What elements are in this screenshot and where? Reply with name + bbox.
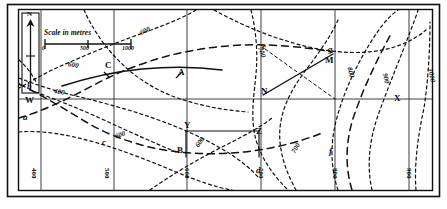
point-label-g: g <box>328 45 333 54</box>
scale-tick-1000: 1000 <box>122 45 134 51</box>
contour-map-figure: N Scale in metres 0 500 1000 A B C W X Y… <box>0 0 447 209</box>
point-label-f: f <box>329 147 332 156</box>
point-label-X: X <box>394 94 401 103</box>
scale-bar-caption: Scale in metres <box>44 29 91 37</box>
contour-800 <box>332 10 398 190</box>
point-label-M: M <box>325 56 334 65</box>
point-label-N: N <box>261 87 268 96</box>
contour-label-900: 900 <box>381 73 390 85</box>
point-label-Z: Z <box>256 127 262 136</box>
north-arrow-label: N <box>27 11 32 18</box>
point-label-a: a <box>23 113 28 122</box>
scale-tick-0: 0 <box>42 45 45 51</box>
section-line-NM <box>263 54 333 95</box>
bottom-axis-label-400: 400 <box>30 168 37 179</box>
bottom-axis-label-800: 800 <box>331 168 338 179</box>
point-label-B: B <box>177 146 183 155</box>
section-line-CA <box>62 67 222 86</box>
point-label-b: b <box>27 82 32 91</box>
scale-tick-500: 500 <box>80 45 89 51</box>
point-label-Y: Y <box>184 121 191 130</box>
bottom-axis-label-600: 600 <box>183 168 190 179</box>
point-label-c: c <box>102 138 106 147</box>
grid-vertical <box>41 10 409 191</box>
contour-700 <box>251 10 288 190</box>
contour-upper-right-sweep <box>214 10 426 53</box>
bottom-axis-label-900: 900 <box>405 168 412 179</box>
contour-label-1000: 1000 <box>426 68 435 83</box>
point-label-C: C <box>105 61 112 70</box>
point-label-W: W <box>25 96 34 105</box>
bottom-axis-label-500: 500 <box>103 168 110 179</box>
contour-1000 <box>415 22 430 190</box>
contour-label-800: 800 <box>346 67 355 79</box>
point-label-A: A <box>178 68 185 77</box>
bottom-axis-label-700: 700 <box>257 168 264 179</box>
